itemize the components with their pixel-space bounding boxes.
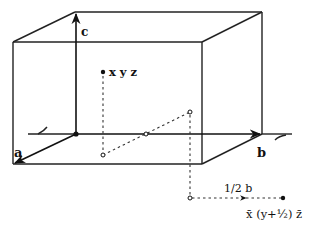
unit-cell-box	[13, 12, 262, 164]
transformed-point	[281, 196, 285, 200]
axis-a	[15, 134, 76, 163]
axis-label-b: b	[257, 145, 266, 160]
original-point-label: x y z	[109, 65, 138, 79]
axis-label-c: c	[81, 25, 88, 39]
axis-intersection-point	[144, 132, 148, 136]
transformed-point-label: x̄ (y+½) z̄	[246, 207, 302, 221]
unit-cell-diagram: c b a x y z 1/2 b x̄ (y+½) z̄	[0, 0, 314, 234]
projected-point	[101, 153, 105, 157]
origin-point	[73, 131, 78, 136]
rotated-point	[188, 110, 192, 114]
rotated-point-projection	[188, 196, 192, 200]
translation-label: 1/2 b	[224, 182, 252, 195]
axis-label-a: a	[14, 145, 23, 160]
original-point	[101, 70, 105, 74]
